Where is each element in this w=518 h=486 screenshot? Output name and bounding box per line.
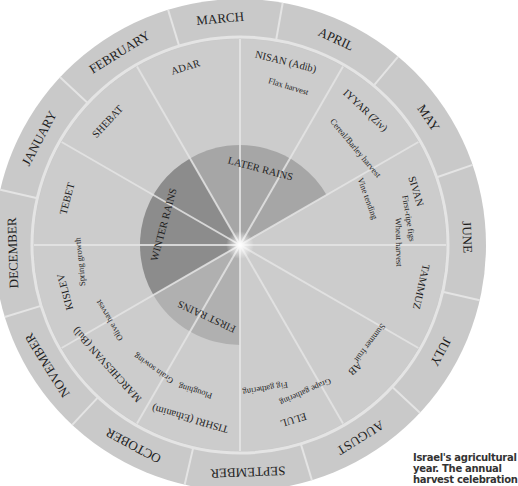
caption: Israel's agricultural year. The annual h… xyxy=(413,452,503,485)
gregorian-month-label: SEPTEMBER xyxy=(210,464,286,482)
activity-label: Wheat harvest xyxy=(394,218,405,268)
center-glow xyxy=(226,231,254,259)
caption-line-3: harvest celebration xyxy=(413,474,503,485)
caption-line-1: Israel's agricultural xyxy=(413,452,503,463)
gregorian-month-label: JUNE xyxy=(459,221,475,253)
gregorian-month-label: DECEMBER xyxy=(4,217,21,289)
caption-line-2: year. The annual xyxy=(413,463,503,474)
